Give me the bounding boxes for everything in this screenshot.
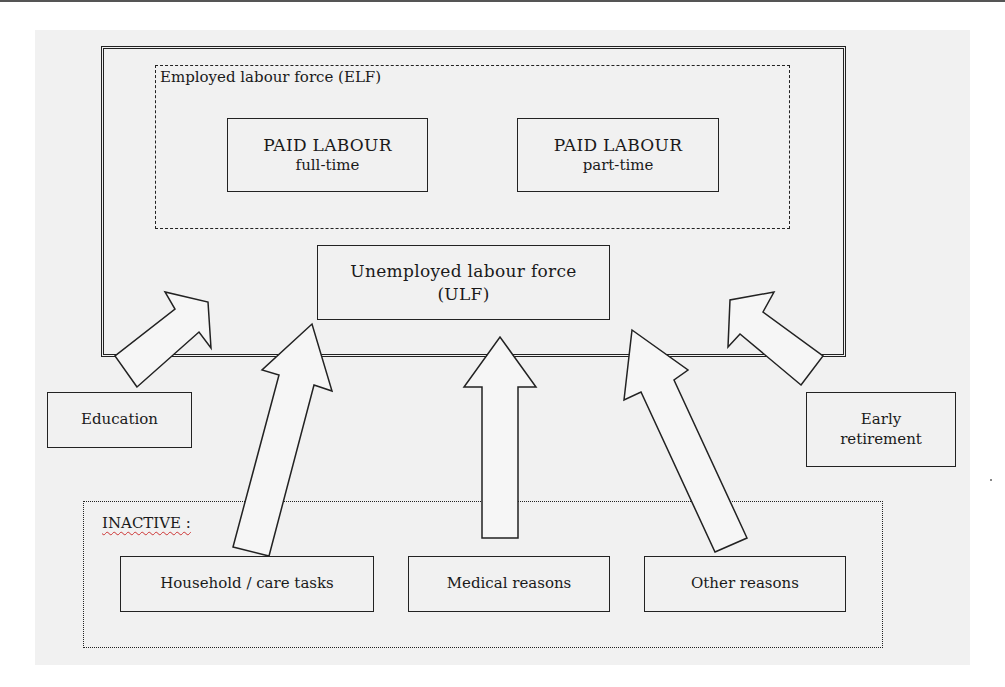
inactive-item-other: Other reasons [644,556,846,612]
unemployed-labour-force-line1: Unemployed labour force [350,260,576,282]
paid-labour-full-time-title: PAID LABOUR [263,134,392,156]
household-care-label: Household / care tasks [160,574,334,594]
paid-labour-full-time-box: PAID LABOUR full-time [227,118,428,192]
paid-labour-full-time-subtitle: full-time [296,156,360,176]
early-retirement-line2: retirement [840,430,922,450]
unemployed-labour-force-line2: (ULF) [437,283,489,305]
early-retirement-line1: Early [861,410,901,430]
inactive-item-medical: Medical reasons [408,556,610,612]
paid-labour-part-time-title: PAID LABOUR [554,134,683,156]
inactive-label: INACTIVE : [102,514,191,532]
education-box: Education [47,392,192,448]
paid-labour-part-time-box: PAID LABOUR part-time [517,118,719,192]
early-retirement-box: Early retirement [806,392,956,467]
medical-reasons-label: Medical reasons [447,574,572,594]
paid-labour-part-time-subtitle: part-time [583,156,654,176]
employed-labour-force-label: Employed labour force (ELF) [160,68,381,86]
stray-dot [990,479,992,481]
education-label: Education [81,410,158,430]
inactive-item-household-care: Household / care tasks [120,556,374,612]
unemployed-labour-force-box: Unemployed labour force (ULF) [317,245,610,320]
top-border-line [0,0,1005,2]
other-reasons-label: Other reasons [691,574,799,594]
